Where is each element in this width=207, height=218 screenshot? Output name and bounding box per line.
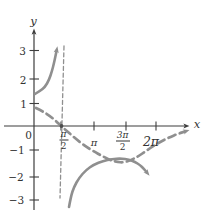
cosine-dashed-curve bbox=[36, 108, 185, 162]
secant-upper-branch-curve bbox=[35, 51, 57, 94]
secant-lower-branch-curve bbox=[69, 159, 147, 207]
trig-graph-figure: yx3210−1−2−3π2ππ23π2 bbox=[0, 0, 207, 218]
graph-canvas bbox=[0, 0, 207, 218]
curve-axis-intersection-dot bbox=[60, 124, 64, 128]
